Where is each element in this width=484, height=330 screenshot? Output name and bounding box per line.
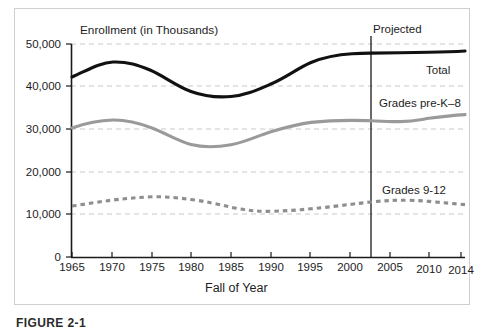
ytick-label-50000: 50,000 bbox=[9, 38, 61, 50]
projected-label: Projected bbox=[373, 23, 422, 35]
y-axis-title: Enrollment (in Thousands) bbox=[80, 23, 218, 37]
series-line-912 bbox=[72, 197, 465, 212]
series-line-prek8 bbox=[72, 115, 465, 147]
series-line-total bbox=[72, 51, 465, 97]
series-label-912: Grades 9-12 bbox=[382, 184, 446, 196]
xtick-label-2014: 2014 bbox=[438, 264, 484, 276]
x-axis-title: Fall of Year bbox=[205, 281, 268, 295]
y-axis-ticks bbox=[66, 44, 72, 257]
x-axis-ticks bbox=[72, 252, 461, 258]
ytick-label-30000: 30,000 bbox=[9, 123, 61, 135]
series-label-total: Total bbox=[426, 64, 450, 76]
ytick-label-40000: 40,000 bbox=[9, 80, 61, 92]
series-label-prek8: Grades pre-K–8 bbox=[379, 97, 461, 109]
ytick-label-20000: 20,000 bbox=[9, 166, 61, 178]
figure-caption: FIGURE 2-1 bbox=[16, 316, 86, 330]
ytick-label-10000: 10,000 bbox=[9, 208, 61, 220]
